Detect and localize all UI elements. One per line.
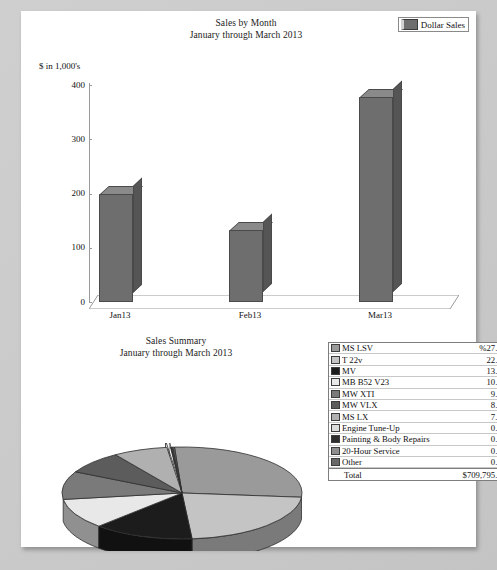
legend-item-value: 0.22	[491, 457, 497, 467]
y-axis-tick-mark	[89, 248, 92, 249]
legend-item-label: MB B52 V23	[342, 377, 486, 387]
legend-item-label: MS LX	[342, 412, 491, 422]
y-axis-tick-mark	[89, 194, 92, 195]
legend-row: 20-Hour Service0.12	[329, 446, 497, 457]
legend-item-value: 0.12	[491, 446, 497, 456]
report-page: Sales by Month January through March 201…	[21, 11, 476, 547]
bar-chart-title: Sales by Month January through March 201…	[111, 18, 381, 41]
total-value: $709,795.00	[463, 470, 497, 480]
legend-item-label: MS LSV	[342, 343, 479, 353]
legend-row: T 22v22.19	[329, 354, 497, 365]
total-label: Total	[331, 470, 463, 480]
legend-swatch	[331, 390, 340, 398]
legend-label-dollar-sales: Dollar Sales	[421, 20, 465, 30]
legend-row: MW XTI9.86	[329, 389, 497, 400]
legend-item-label: 20-Hour Service	[342, 446, 491, 456]
y-axis-tick-label: 200	[51, 188, 85, 198]
legend-item-value: 22.19	[486, 355, 497, 365]
legend-row: MB B52 V2310.57	[329, 377, 497, 388]
x-axis-label-jan13: Jan13	[90, 310, 150, 320]
bar-side-face	[133, 177, 142, 292]
legend-item-label: Engine Tune-Up	[342, 423, 491, 433]
y-axis-unit-label: $ in 1,000's	[39, 61, 80, 71]
bar-side-face	[263, 213, 272, 292]
chart-floor-plane	[89, 295, 459, 309]
legend-row: Painting & Body Repairs0.19	[329, 434, 497, 445]
pie-legend-table: MS LSV%27.47T 22v22.19MV13.53MB B52 V231…	[328, 342, 497, 481]
legend-swatch	[331, 413, 340, 421]
legend-item-value: 0.49	[491, 423, 497, 433]
legend-swatch	[331, 401, 340, 409]
bar-mar13	[359, 97, 393, 302]
legend-item-value: 8.03	[491, 400, 497, 410]
legend-row: Engine Tune-Up0.49	[329, 423, 497, 434]
bar-chart-legend: Dollar Sales	[398, 17, 469, 32]
x-axis-label-feb13: Feb13	[220, 310, 280, 320]
pie-chart-title: Sales Summary January through March 2013	[76, 336, 276, 359]
pie-slice-ms-lsv	[174, 447, 302, 497]
pie-chart-title-line2: January through March 2013	[76, 348, 276, 360]
bar-feb13	[229, 230, 263, 302]
pie-chart	[49, 443, 319, 551]
legend-swatch	[331, 378, 340, 386]
legend-item-value: 7.33	[491, 412, 497, 422]
legend-row: MV13.53	[329, 366, 497, 377]
bar-chart-title-line1: Sales by Month	[111, 18, 381, 30]
pie-chart-title-line1: Sales Summary	[76, 336, 276, 348]
report-window: Sales by Month January through March 201…	[0, 0, 497, 570]
legend-item-value: 9.86	[491, 389, 497, 399]
legend-swatch	[331, 424, 340, 432]
legend-swatch	[331, 367, 340, 375]
legend-row: MS LX7.33	[329, 411, 497, 422]
legend-item-value: 10.57	[486, 377, 497, 387]
y-axis-tick-label: 300	[51, 134, 85, 144]
bar-jan13	[99, 194, 133, 303]
y-axis-tick-label: 0	[51, 297, 85, 307]
y-axis-tick-mark	[89, 139, 92, 140]
y-axis-tick-mark	[89, 85, 92, 86]
legend-row: MW VLX8.03	[329, 400, 497, 411]
y-axis-tick-label: 400	[51, 80, 85, 90]
legend-swatch	[331, 344, 340, 352]
legend-item-value: 13.53	[486, 366, 497, 376]
legend-row: Other0.22	[329, 457, 497, 468]
legend-item-label: MW VLX	[342, 400, 491, 410]
bar-chart-title-line2: January through March 2013	[111, 30, 381, 42]
legend-item-value: %27.47	[479, 343, 497, 353]
legend-item-label: T 22v	[342, 355, 486, 365]
legend-item-label: MW XTI	[342, 389, 491, 399]
legend-swatch	[331, 435, 340, 443]
legend-swatch	[331, 447, 340, 455]
y-axis-tick-label: 100	[51, 242, 85, 252]
legend-item-label: Other	[342, 457, 491, 467]
legend-row: MS LSV%27.47	[329, 343, 497, 354]
legend-item-value: 0.19	[491, 434, 497, 444]
legend-swatch	[331, 356, 340, 364]
legend-total-row: Total$709,795.00	[329, 468, 497, 480]
legend-swatch-dollar-sales	[401, 19, 418, 30]
x-axis-label-mar13: Mar13	[350, 310, 410, 320]
legend-swatch	[331, 458, 340, 466]
legend-item-label: MV	[342, 366, 486, 376]
legend-item-label: Painting & Body Repairs	[342, 434, 491, 444]
bar-chart: Sales by Month January through March 201…	[21, 11, 476, 323]
bar-side-face	[393, 81, 402, 292]
